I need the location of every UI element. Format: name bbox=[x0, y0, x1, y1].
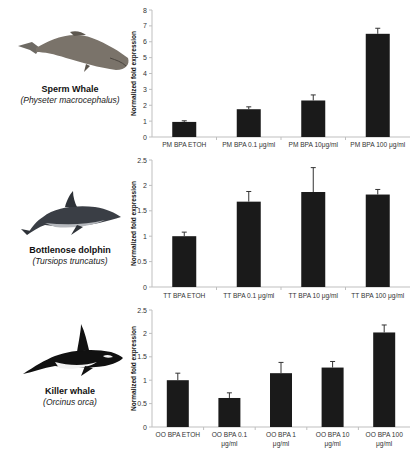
x-tick-label: μg/ml bbox=[324, 440, 341, 448]
y-tick-label: 0.5 bbox=[137, 258, 147, 265]
y-tick-label: 4 bbox=[143, 70, 147, 77]
bar bbox=[172, 236, 196, 287]
y-axis-label: Normalized fold expression bbox=[130, 31, 138, 116]
y-tick-label: 2 bbox=[143, 102, 147, 109]
chart-2: 00.511.522.5Normalized fold expressionTT… bbox=[130, 157, 410, 301]
x-tick-label: TT BPA 0.1 μg/ml bbox=[223, 292, 275, 300]
bar bbox=[301, 100, 325, 137]
x-tick-label: OO BPA 100 bbox=[366, 431, 404, 438]
x-tick-label: OO BPA 1 bbox=[266, 431, 296, 438]
y-axis-label: Normalized fold expression bbox=[130, 326, 138, 411]
x-tick-label: OO BPA 10 bbox=[316, 431, 350, 438]
y-tick-label: 1 bbox=[143, 118, 147, 125]
bar bbox=[366, 195, 390, 287]
y-tick-label: 7 bbox=[143, 22, 147, 29]
bar bbox=[301, 192, 325, 287]
x-tick-label: PM BPA 0.1 μg/ml bbox=[222, 141, 276, 149]
y-tick-label: 1.5 bbox=[137, 207, 147, 214]
x-tick-label: PM BPA ETOH bbox=[162, 141, 206, 148]
y-axis-label: Normalized fold expression bbox=[130, 181, 138, 266]
y-tick-label: 2.5 bbox=[137, 307, 147, 314]
bar bbox=[373, 332, 395, 427]
bar bbox=[237, 109, 261, 137]
y-tick-label: 8 bbox=[143, 7, 147, 14]
y-tick-label: 2.5 bbox=[137, 157, 147, 164]
bar bbox=[172, 122, 196, 137]
y-tick-label: 2 bbox=[143, 182, 147, 189]
chart-1: 012345678Normalized fold expressionPM BP… bbox=[130, 7, 410, 150]
bar bbox=[237, 202, 261, 287]
y-tick-label: 0.5 bbox=[137, 400, 147, 407]
y-tick-label: 1 bbox=[143, 377, 147, 384]
y-tick-label: 0 bbox=[143, 284, 147, 291]
y-tick-label: 6 bbox=[143, 38, 147, 45]
x-tick-label: PM BPA 10μg/ml bbox=[289, 141, 339, 149]
bar bbox=[270, 373, 292, 427]
x-tick-label: TT BPA 10 μg/ml bbox=[289, 292, 339, 300]
y-tick-label: 3 bbox=[143, 86, 147, 93]
bar bbox=[366, 34, 390, 137]
x-tick-label: μg/ml bbox=[221, 440, 238, 448]
y-tick-label: 5 bbox=[143, 54, 147, 61]
bar bbox=[322, 368, 344, 427]
bar-charts: 012345678Normalized fold expressionPM BP… bbox=[0, 0, 415, 461]
chart-3: 00.511.522.5Normalized fold expressionOO… bbox=[130, 307, 410, 449]
bar bbox=[167, 380, 189, 427]
x-tick-label: OO BPA 0.1 bbox=[212, 431, 248, 438]
x-tick-label: PM BPA 100 μg/ml bbox=[350, 141, 406, 149]
x-tick-label: TT BPA 100 μg/ml bbox=[351, 292, 405, 300]
y-tick-label: 0 bbox=[143, 134, 147, 141]
x-tick-label: μg/ml bbox=[273, 440, 290, 448]
x-tick-label: OO BPA ETOH bbox=[156, 431, 201, 438]
y-tick-label: 0 bbox=[143, 424, 147, 431]
y-tick-label: 1.5 bbox=[137, 353, 147, 360]
x-tick-label: μg/ml bbox=[376, 440, 393, 448]
y-tick-label: 1 bbox=[143, 233, 147, 240]
x-tick-label: TT BPA ETOH bbox=[163, 292, 205, 299]
y-tick-label: 2 bbox=[143, 330, 147, 337]
bar bbox=[218, 398, 240, 427]
